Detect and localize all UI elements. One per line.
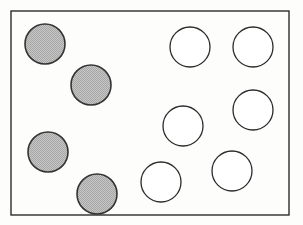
circle-shaded-2 xyxy=(71,65,111,105)
circle-shaded-3 xyxy=(28,132,68,172)
circle-shaded-1 xyxy=(25,24,65,64)
circle-shaded-4 xyxy=(77,174,117,214)
circle-unshaded-5 xyxy=(141,162,181,202)
circles-diagram-canvas xyxy=(0,0,303,225)
circle-unshaded-3 xyxy=(233,90,273,130)
circle-unshaded-4 xyxy=(163,106,203,146)
circle-unshaded-2 xyxy=(233,27,273,67)
circle-unshaded-1 xyxy=(170,27,210,67)
circle-unshaded-6 xyxy=(212,151,252,191)
figure-container: Two groups of circles inside a rectangul… xyxy=(0,0,303,225)
